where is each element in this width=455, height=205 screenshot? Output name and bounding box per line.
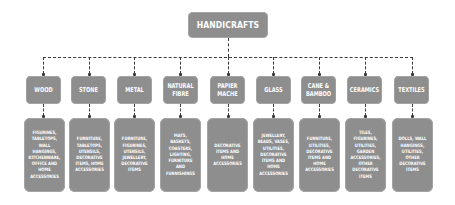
description-text: DOLLS, WALL HANGINGS, UTILITIES, OTHER D… [396,136,429,173]
category-node-stone: STONE [71,76,106,104]
description-node-cane-bamboo: FURNITURE, UTILITIES, DECORATIVE ITEMS A… [299,118,340,192]
branch-connector [43,57,44,74]
description-node-natural-fibre: MATS, BASKETS, COASTERS, LIGHTING, FURNI… [160,118,201,192]
description-node-ceramics: TILES, FIGURINES, UTILITIES, GARDEN ACCE… [345,118,386,192]
branch-connector [180,57,181,74]
branch-connector [319,57,320,74]
branch-connector [412,57,413,74]
category-node-textiles: TEXTILES [394,76,429,104]
root-connector [228,38,229,57]
description-node-wood: FIGURINES, TABLETOPS, WALL HANGINGS, KIT… [24,118,65,192]
description-text: FURNITURE, TABLETOPS, UTENSILS, DECORATI… [73,136,106,173]
category-label: NATURAL FIBRE [165,82,196,98]
description-node-textiles: DOLLS, WALL HANGINGS, UTILITIES, OTHER D… [392,118,433,192]
description-node-papier-mache: DECORATIVE ITEMS AND HOME ACCESSORIES [207,118,248,192]
category-label: PAPIER MACHE [212,82,243,98]
category-node-natural-fibre: NATURAL FIBRE [163,76,198,104]
category-node-wood: WOOD [26,76,61,104]
branch-connector [365,57,366,74]
description-text: DECORATIVE ITEMS AND HOME ACCESSORIES [211,143,244,168]
description-text: FURNITURE, UTILITIES, DECORATIVE ITEMS A… [303,136,336,173]
branch-connector [134,57,135,74]
description-node-glass: JEWELLERY, BEADS, VASES, UTILITIES, DECO… [253,118,294,192]
category-label: GLASS [264,86,282,94]
category-node-cane-bamboo: CANE & BAMBOO [301,76,336,104]
category-label: CERAMICS [350,86,379,94]
category-node-metal: METAL [117,76,152,104]
category-node-papier-mache: PAPIER MACHE [210,76,245,104]
root-label: HANDICRAFTS [197,20,259,30]
description-node-metal: FURNITURE, FIGURINES, UTENSILS, JEWELLER… [114,118,155,192]
description-text: MATS, BASKETS, COASTERS, LIGHTING, FURNI… [164,133,197,176]
description-node-stone: FURNITURE, TABLETOPS, UTENSILS, DECORATI… [69,118,110,192]
branch-connector [228,57,229,74]
description-text: FURNITURE, FIGURINES, UTENSILS, JEWELLER… [118,136,151,173]
category-label: STONE [79,86,98,94]
category-node-glass: GLASS [256,76,291,104]
root-node-handicrafts: HANDICRAFTS [188,12,268,38]
category-label: CANE & BAMBOO [303,82,334,98]
branch-connector [89,57,90,74]
category-label: WOOD [34,86,52,94]
description-text: JEWELLERY, BEADS, VASES, UTILITIES, DECO… [257,133,290,176]
description-text: FIGURINES, TABLETOPS, WALL HANGINGS, KIT… [28,130,61,180]
category-label: METAL [125,86,144,94]
description-text: TILES, FIGURINES, UTILITIES, GARDEN ACCE… [349,130,382,180]
category-label: TEXTILES [398,86,424,94]
category-node-ceramics: CERAMICS [347,76,382,104]
branch-connector [273,57,274,74]
